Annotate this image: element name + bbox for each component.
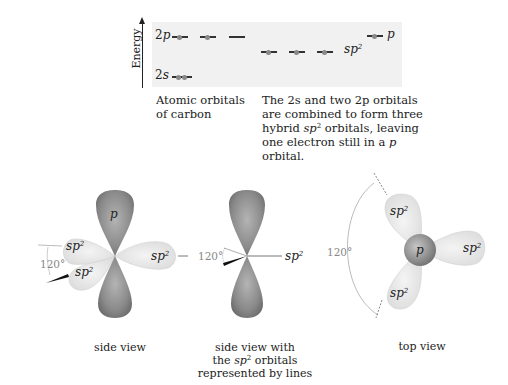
side-view-lines-sp2-label: sp2 <box>285 249 303 263</box>
top-view-sp2-lower-label: sp2 <box>390 286 408 300</box>
top-view-sp2-right-label: sp2 <box>463 241 481 255</box>
top-view-angle-label: 120° <box>327 246 352 258</box>
side-view-sp2-right-label: sp2 <box>151 249 169 263</box>
top-view-caption: top view <box>372 340 472 353</box>
orbital-drawings <box>0 0 508 385</box>
side-view-p-label: p <box>110 207 118 221</box>
side-view-sp2-back-label: sp2 <box>66 239 84 253</box>
top-view-p-label: p <box>416 243 424 257</box>
side-view-angle-label: 120° <box>40 258 65 270</box>
side-view-lines-caption: side view with the sp2 orbitals represen… <box>195 341 315 380</box>
side-view-lines-drawing <box>223 190 282 318</box>
top-view-sp2-upper-label: sp2 <box>390 204 408 218</box>
side-view-caption: side view <box>70 341 170 354</box>
side-view-sp2-front-label: sp2 <box>75 265 93 279</box>
side-view-lines-angle-label: 120° <box>198 250 223 262</box>
